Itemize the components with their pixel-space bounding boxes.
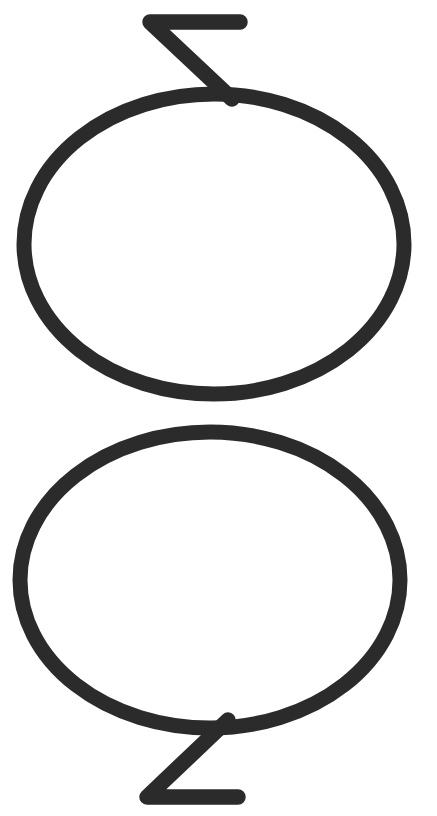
artboard [0, 0, 437, 816]
background-rect [0, 0, 437, 816]
logo-mark-svg [0, 0, 437, 816]
